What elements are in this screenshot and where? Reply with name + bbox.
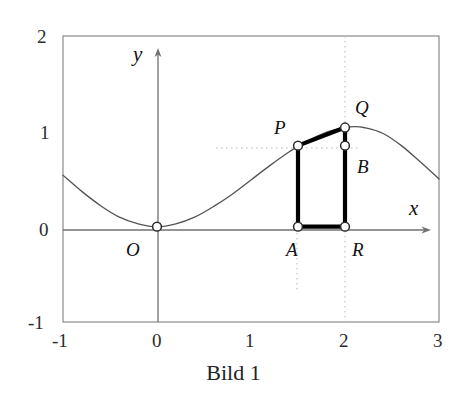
plot-frame	[63, 36, 439, 322]
marker-B	[341, 141, 350, 150]
segment-PQ	[298, 128, 345, 146]
x-tick-0: 0	[152, 331, 162, 350]
marker-O	[153, 222, 162, 231]
x-tick-minus-1: -1	[52, 331, 68, 350]
x-axis-label: x	[409, 198, 418, 219]
plot-canvas	[0, 0, 467, 414]
marker-P	[294, 141, 303, 150]
x-tick-2: 2	[339, 331, 349, 350]
label-P: P	[274, 118, 286, 137]
marker-Q	[341, 123, 350, 132]
label-O: O	[126, 240, 140, 259]
y-tick-0: 0	[39, 220, 49, 239]
figure-caption: Bild 1	[0, 360, 467, 386]
label-Q: Q	[355, 98, 369, 117]
y-tick-2: 2	[37, 27, 47, 46]
label-B: B	[357, 157, 369, 176]
x-tick-1: 1	[245, 331, 255, 350]
y-tick-minus-1: -1	[28, 313, 44, 332]
label-A: A	[286, 240, 298, 259]
marker-R	[341, 222, 350, 231]
x-tick-3: 3	[433, 331, 443, 350]
y-tick-1: 1	[40, 123, 50, 142]
label-R: R	[352, 240, 364, 259]
y-axis-label: y	[133, 44, 142, 65]
function-curve	[63, 127, 439, 227]
marker-A	[294, 222, 303, 231]
figure-bild-1: 2 1 0 -1 -1 0 1 2 3 y x O P Q A B R Bild…	[0, 0, 467, 414]
